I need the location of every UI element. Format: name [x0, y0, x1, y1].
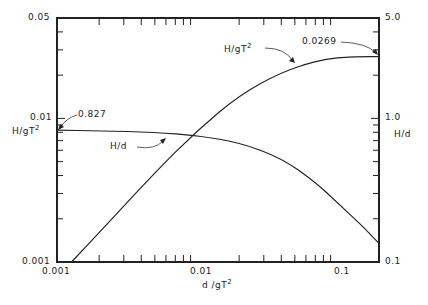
x-tick-0.01: 0.01 [190, 266, 212, 276]
leader-hgt [265, 48, 293, 61]
arrowhead-hgt [289, 57, 295, 63]
x-axis-label: d /gT2 [202, 278, 232, 290]
leader-hd [137, 141, 163, 148]
annotation-0827: 0.827 [78, 109, 106, 119]
curve-h-over-gt2 [72, 57, 380, 262]
chart-canvas [0, 0, 428, 305]
y-right-tick-5.0: 5.0 [385, 12, 401, 22]
y-right-axis-label: H/d [394, 129, 411, 139]
y-left-tick-0.05: 0.05 [28, 12, 50, 22]
curve-label-hd: H/d [110, 141, 127, 151]
y-left-axis-label: H/gT2 [12, 124, 40, 136]
x-tick-0.001: 0.001 [42, 266, 70, 276]
curve-label-hgt: H/gT2 [224, 42, 252, 54]
annotation-0269: 0.0269 [302, 36, 337, 46]
data-curves [57, 57, 379, 262]
leader-0269 [341, 42, 376, 53]
y-left-tick-0.01: 0.01 [30, 112, 52, 122]
x-tick-0.1: 0.1 [334, 266, 350, 276]
annotation-leaders [60, 42, 376, 148]
y-left-tick-0.001: 0.001 [22, 256, 50, 266]
annotation-arrowheads [58, 49, 378, 144]
y-right-tick-0.1: 0.1 [385, 256, 401, 266]
y-right-tick-1.0: 1.0 [385, 112, 401, 122]
